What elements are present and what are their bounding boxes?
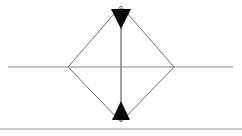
diagram-svg bbox=[0, 0, 242, 136]
diagram-canvas bbox=[0, 0, 242, 136]
